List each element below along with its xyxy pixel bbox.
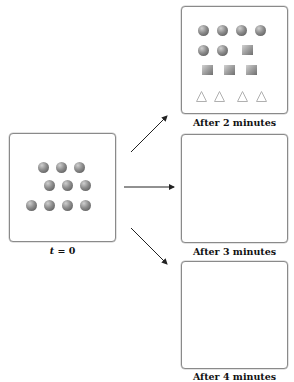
initial-state-label: t = 0 bbox=[9, 245, 116, 256]
time-value: = 0 bbox=[54, 245, 75, 256]
panel-after-3-minutes bbox=[181, 134, 288, 243]
panel-label-4-minutes: After 4 minutes bbox=[181, 371, 288, 382]
panel-after-4-minutes bbox=[181, 261, 288, 369]
reactant-sphere bbox=[44, 180, 55, 191]
product-cube bbox=[242, 45, 253, 55]
reactant-sphere bbox=[198, 45, 209, 56]
reactant-sphere bbox=[236, 25, 247, 36]
panel-after-2-minutes bbox=[181, 6, 288, 114]
arrow-to-2-min bbox=[131, 116, 167, 152]
reactant-sphere bbox=[38, 162, 49, 173]
reactant-sphere bbox=[62, 180, 73, 191]
reactant-sphere bbox=[217, 45, 228, 56]
product-cube bbox=[202, 65, 213, 75]
reactant-sphere bbox=[80, 180, 91, 191]
reactant-sphere bbox=[74, 162, 85, 173]
product-cube bbox=[224, 65, 235, 75]
panel-label-3-minutes: After 3 minutes bbox=[181, 246, 288, 257]
reactant-sphere bbox=[255, 25, 266, 36]
reactant-sphere bbox=[44, 200, 55, 211]
reactant-sphere bbox=[62, 200, 73, 211]
reactant-sphere bbox=[56, 162, 67, 173]
initial-state-box bbox=[9, 133, 116, 242]
panel-label-2-minutes: After 2 minutes bbox=[181, 117, 288, 128]
reactant-sphere bbox=[80, 200, 91, 211]
product-cone bbox=[256, 87, 267, 98]
arrow-to-4-min bbox=[131, 228, 167, 264]
reactant-sphere bbox=[198, 25, 209, 36]
product-cone bbox=[214, 87, 225, 98]
product-cone bbox=[196, 87, 207, 98]
product-cube bbox=[246, 65, 257, 75]
reactant-sphere bbox=[217, 25, 228, 36]
reactant-sphere bbox=[26, 200, 37, 211]
product-cone bbox=[237, 87, 248, 98]
